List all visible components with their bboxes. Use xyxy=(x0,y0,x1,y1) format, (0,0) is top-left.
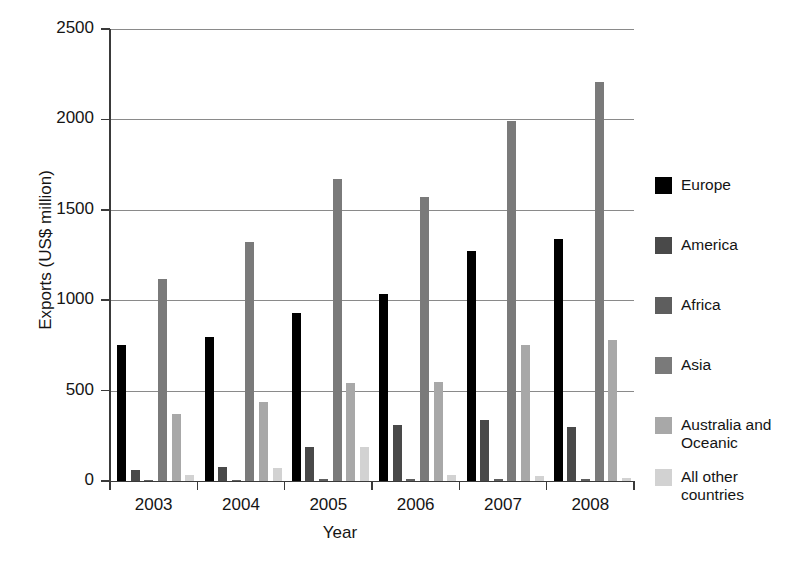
y-tick-label: 2500 xyxy=(24,18,94,38)
bar xyxy=(305,447,314,481)
x-tick-label: 2006 xyxy=(376,495,456,515)
bar xyxy=(480,420,489,481)
x-tick-mark xyxy=(371,481,373,490)
x-tick-label: 2007 xyxy=(463,495,543,515)
x-tick-mark xyxy=(459,481,461,490)
bar xyxy=(595,82,604,481)
x-tick-mark xyxy=(633,481,635,490)
bar xyxy=(434,382,443,481)
bar xyxy=(232,480,241,481)
x-tick-mark xyxy=(197,481,199,490)
legend-item[interactable]: Asia xyxy=(655,356,711,374)
legend-item[interactable]: All other countries xyxy=(655,468,744,503)
bar xyxy=(259,402,268,481)
bar xyxy=(292,313,301,481)
bar xyxy=(158,279,167,481)
bar xyxy=(172,414,181,481)
bar xyxy=(467,251,476,481)
legend-item[interactable]: Europe xyxy=(655,176,731,194)
bar xyxy=(144,480,153,481)
bar xyxy=(581,479,590,481)
x-tick-label: 2004 xyxy=(201,495,281,515)
legend-label: Australia and Oceanic xyxy=(681,416,771,451)
x-tick-mark xyxy=(109,481,111,490)
plot-area xyxy=(110,29,634,481)
y-tick-label: 2000 xyxy=(24,108,94,128)
bar xyxy=(218,467,227,481)
legend-swatch-icon xyxy=(655,297,672,314)
bar xyxy=(554,239,563,481)
y-tick-label: 0 xyxy=(24,470,94,490)
bar xyxy=(333,179,342,481)
bar xyxy=(379,294,388,481)
x-tick-label: 2005 xyxy=(288,495,368,515)
bar xyxy=(608,340,617,481)
bar xyxy=(346,383,355,481)
bar xyxy=(117,345,126,481)
x-tick-mark xyxy=(284,481,286,490)
bar xyxy=(131,470,140,481)
bar xyxy=(567,427,576,481)
y-tick-label: 500 xyxy=(24,380,94,400)
bar xyxy=(273,468,282,481)
bar xyxy=(205,337,214,481)
chart-figure: Exports (US$ million) Year 0500100015002… xyxy=(0,0,797,562)
legend-label: All other countries xyxy=(681,468,744,503)
y-tick-label: 1000 xyxy=(24,289,94,309)
bar xyxy=(622,478,631,481)
bar xyxy=(507,121,516,481)
x-tick-label: 2008 xyxy=(550,495,630,515)
legend-label: Asia xyxy=(681,356,711,374)
bar xyxy=(447,475,456,481)
bar xyxy=(535,476,544,481)
bar xyxy=(406,479,415,481)
legend-label: America xyxy=(681,236,738,254)
legend-item[interactable]: Australia and Oceanic xyxy=(655,416,771,451)
legend-label: Europe xyxy=(681,176,731,194)
legend-swatch-icon xyxy=(655,237,672,254)
legend-swatch-icon xyxy=(655,469,672,486)
bar xyxy=(185,475,194,481)
bar xyxy=(360,447,369,481)
bar xyxy=(393,425,402,481)
bar xyxy=(494,479,503,481)
bar xyxy=(521,345,530,481)
y-tick-label: 1500 xyxy=(24,199,94,219)
legend-swatch-icon xyxy=(655,417,672,434)
bar xyxy=(245,242,254,481)
legend-swatch-icon xyxy=(655,177,672,194)
bar xyxy=(420,197,429,481)
legend-item[interactable]: Africa xyxy=(655,296,721,314)
bar xyxy=(319,479,328,481)
x-tick-label: 2003 xyxy=(114,495,194,515)
y-axis-title: Exports (US$ million) xyxy=(36,100,56,400)
legend-label: Africa xyxy=(681,296,721,314)
legend-swatch-icon xyxy=(655,357,672,374)
x-axis-title: Year xyxy=(110,523,570,543)
legend-item[interactable]: America xyxy=(655,236,738,254)
x-tick-mark xyxy=(546,481,548,490)
